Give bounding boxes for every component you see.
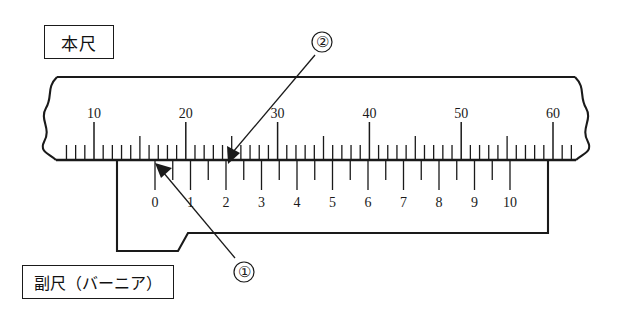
- main-scale-ticks: [66, 122, 571, 160]
- main-scale-numbers: 102030405060: [87, 106, 560, 121]
- vernier-caliper-diagram: 102030405060 012345678910 ② ① 本尺 副尺（バーニア…: [0, 0, 638, 318]
- vernier-scale-tick-label: 0: [152, 195, 159, 210]
- main-scale-tick-label: 10: [87, 106, 101, 121]
- vernier-scale-tick-label: 9: [471, 195, 478, 210]
- main-scale-tick-label: 50: [454, 106, 468, 121]
- vernier-scale-tick-label: 3: [258, 195, 265, 210]
- callout-2-leader-line: [233, 55, 315, 152]
- main-scale-tick-label: 20: [179, 106, 193, 121]
- callout-2-number: ②: [316, 34, 329, 50]
- vernier-scale-tick-label: 7: [400, 195, 407, 210]
- callout-1-leader-line: [163, 172, 235, 258]
- vernier-scale-numbers: 012345678910: [152, 195, 518, 210]
- vernier-scale-ticks: [155, 160, 510, 190]
- vernier-scale-tick-label: 2: [223, 195, 230, 210]
- callout-1-number: ①: [238, 264, 251, 280]
- vernier-scale-tick-label: 4: [294, 195, 301, 210]
- main-scale-label: 本尺: [44, 25, 114, 59]
- callout-1-arrowhead: [155, 163, 172, 178]
- vernier-scale-tick-label: 8: [436, 195, 443, 210]
- main-scale-tick-label: 30: [271, 106, 285, 121]
- vernier-scale-label: 副尺（バーニア）: [22, 265, 174, 299]
- right-break-symbol: [575, 77, 589, 160]
- vernier-scale-tick-label: 6: [365, 195, 372, 210]
- vernier-scale-tick-label: 5: [329, 195, 336, 210]
- vernier-scale-tick-label: 10: [503, 195, 517, 210]
- callout-2-group: ②: [227, 32, 332, 164]
- left-break-symbol: [43, 77, 57, 160]
- callout-2-arrowhead: [227, 146, 240, 164]
- main-scale-tick-label: 40: [362, 106, 376, 121]
- main-scale-tick-label: 60: [546, 106, 560, 121]
